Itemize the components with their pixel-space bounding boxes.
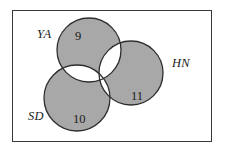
count-sd-only: 10 bbox=[73, 113, 86, 126]
set-label-sd: SD bbox=[28, 110, 44, 123]
count-ya-only: 9 bbox=[75, 30, 81, 43]
set-label-ya: YA bbox=[37, 28, 51, 41]
region-sd-only-fill bbox=[0, 0, 226, 155]
venn-circles-graphic bbox=[0, 0, 226, 155]
set-label-hn: HN bbox=[172, 57, 190, 70]
count-hn-only: 11 bbox=[131, 90, 143, 103]
venn-diagram-figure: YA HN SD 9 11 10 bbox=[0, 0, 226, 155]
